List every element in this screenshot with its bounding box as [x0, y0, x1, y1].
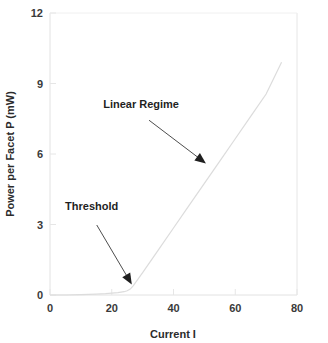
x-tick-label: 80 [291, 302, 303, 314]
chart-container: 036912 020406080 Linear RegimeThreshold … [0, 0, 328, 343]
y-axis-title: Power per Facet P (mW) [4, 91, 16, 217]
y-tick-label: 0 [37, 289, 43, 301]
x-tick-label: 60 [229, 302, 241, 314]
x-tick-label: 40 [167, 302, 179, 314]
y-tick-label: 3 [37, 219, 43, 231]
annotation-label: Linear Regime [103, 98, 179, 110]
plot-background [50, 13, 297, 295]
x-axis-tick-labels: 020406080 [47, 302, 303, 314]
y-axis-tick-labels: 036912 [31, 7, 43, 301]
y-tick-label: 12 [31, 7, 43, 19]
y-tick-label: 6 [37, 148, 43, 160]
annotation-label: Threshold [65, 200, 118, 212]
x-axis-title: Current I [150, 328, 196, 340]
y-tick-label: 9 [37, 78, 43, 90]
x-tick-label: 0 [47, 302, 53, 314]
x-tick-label: 20 [106, 302, 118, 314]
li-curve-chart: 036912 020406080 Linear RegimeThreshold … [0, 0, 328, 343]
